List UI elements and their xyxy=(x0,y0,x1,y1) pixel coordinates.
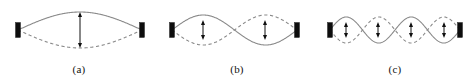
panel-c-caption: (c) xyxy=(316,62,474,76)
panel-c: (c) xyxy=(316,0,474,84)
antinode-arrow xyxy=(442,22,446,38)
antinode-arrow xyxy=(376,22,380,38)
support-block-left xyxy=(328,23,333,38)
arrow-head-up xyxy=(442,22,446,27)
panel-b: (b) xyxy=(158,0,316,84)
panel-a-caption: (a) xyxy=(0,62,158,76)
panel-b-diagram xyxy=(158,0,316,62)
support-block-left xyxy=(170,23,175,38)
arrow-head-up xyxy=(409,22,413,27)
wave-curve-solid xyxy=(330,17,460,43)
arrow-head-down xyxy=(442,33,446,38)
antinode-arrow xyxy=(263,20,267,40)
panel-c-diagram xyxy=(316,0,474,62)
support-block-right xyxy=(295,23,300,38)
arrow-head-down xyxy=(376,33,380,38)
arrow-head-up xyxy=(78,12,82,17)
wave-curve-dashed xyxy=(172,15,297,45)
antinode-arrow xyxy=(201,20,205,40)
standing-wave-figure: (a) (b) (c) xyxy=(0,0,474,84)
arrow-head-down xyxy=(409,33,413,38)
arrow-head-up xyxy=(263,20,267,25)
panel-a-diagram xyxy=(0,0,158,62)
panel-a: (a) xyxy=(0,0,158,84)
antinode-arrow xyxy=(409,22,413,38)
arrow-head-down xyxy=(78,43,82,48)
arrow-head-up xyxy=(344,22,348,27)
support-block-right xyxy=(140,23,145,38)
panel-b-caption: (b) xyxy=(158,62,316,76)
arrow-head-down xyxy=(263,35,267,40)
arrow-head-down xyxy=(201,35,205,40)
arrow-head-up xyxy=(376,22,380,27)
antinode-arrow xyxy=(78,12,82,48)
arrow-head-up xyxy=(201,20,205,25)
support-block-right xyxy=(458,23,463,38)
arrow-head-down xyxy=(344,33,348,38)
support-block-left xyxy=(16,23,21,38)
antinode-arrow xyxy=(344,22,348,38)
